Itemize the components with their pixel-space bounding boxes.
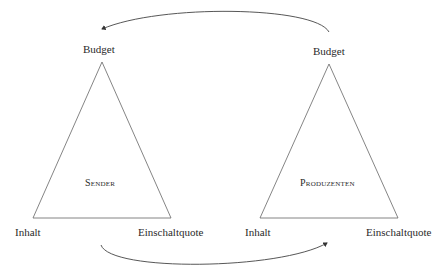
sender-center-label: Sender [85,177,115,189]
produzenten-base-left-label: Inhalt [245,226,271,238]
sender-base-left-label: Inhalt [15,226,41,238]
produzenten-base-right-label: Einschaltquote [366,226,431,238]
sender-apex-label: Budget [83,43,115,55]
produzenten-triangle [260,64,398,218]
bottom-arrow [101,243,327,264]
produzenten-center-label: Produzenten [300,177,355,189]
sender-triangle [33,62,171,218]
sender-base-right-label: Einschaltquote [138,226,203,238]
produzenten-apex-label: Budget [313,45,345,57]
top-arrow [102,11,329,32]
